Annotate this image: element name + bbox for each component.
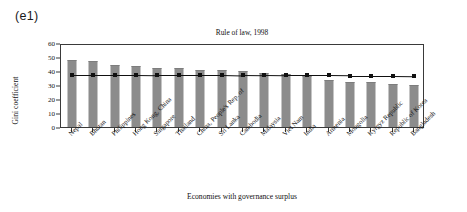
data-point-marker[interactable] (155, 73, 159, 77)
reference-line-segment (93, 75, 114, 76)
data-point-marker[interactable] (134, 73, 138, 77)
data-point-marker[interactable] (327, 73, 331, 77)
chart-title: Rule of law, 1998 (60, 28, 424, 37)
data-point-marker[interactable] (241, 73, 245, 77)
data-point-marker[interactable] (369, 74, 373, 78)
reference-line-segment (157, 75, 178, 76)
panel-tag: (e1) (15, 9, 38, 23)
data-point-marker[interactable] (412, 74, 416, 78)
y-tick-label: 10 (48, 110, 55, 118)
reference-line-segment (222, 75, 243, 76)
data-point-marker[interactable] (348, 74, 352, 78)
data-point-marker[interactable] (391, 74, 395, 78)
data-point-marker[interactable] (305, 73, 309, 77)
y-tick-label: 20 (48, 96, 55, 104)
plot-area (60, 44, 424, 128)
reference-line-layer (61, 45, 423, 127)
data-point-marker[interactable] (113, 73, 117, 77)
reference-line-segment (286, 75, 307, 76)
reference-line-segment (179, 75, 200, 76)
reference-line-segment (243, 75, 264, 76)
data-point-marker[interactable] (91, 73, 95, 77)
y-tick-label: 60 (48, 40, 55, 48)
reference-line-segment (200, 75, 221, 76)
reference-line-segment (307, 75, 328, 76)
data-point-marker[interactable] (220, 73, 224, 77)
reference-line-segment (72, 75, 93, 76)
y-tick-label: 40 (48, 68, 55, 76)
reference-line-segment (393, 76, 414, 77)
y-tick-label: 50 (48, 54, 55, 62)
data-point-marker[interactable] (284, 73, 288, 77)
x-axis-labels: NepalBhutanPhilippinesHong Kong, ChinaSi… (60, 132, 424, 194)
y-tick-label: 30 (48, 82, 55, 90)
y-axis-label: Gini coefficient (11, 56, 20, 146)
data-point-marker[interactable] (198, 73, 202, 77)
data-point-marker[interactable] (70, 73, 74, 77)
y-tick-label: 0 (52, 124, 56, 132)
data-point-marker[interactable] (177, 73, 181, 77)
x-axis-label: Economies with governance surplus (60, 192, 424, 201)
reference-line-segment (115, 75, 136, 76)
reference-line-segment (264, 75, 285, 76)
reference-line-segment (136, 75, 157, 76)
reference-line-segment (350, 76, 371, 77)
data-point-marker[interactable] (262, 73, 266, 77)
reference-line-segment (329, 75, 350, 76)
reference-line-segment (371, 76, 392, 77)
y-axis: Gini coefficient 0102030405060 (0, 44, 60, 128)
